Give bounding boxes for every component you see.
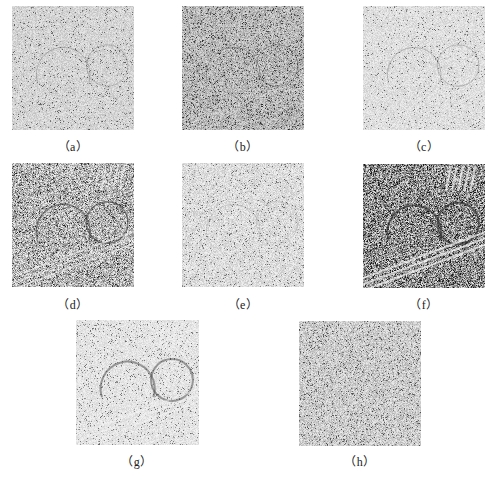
panel-f-image <box>363 164 485 288</box>
panel-g-image <box>76 320 199 445</box>
caption-d: （d） <box>43 295 103 313</box>
panel-c-image <box>363 6 485 130</box>
panel-h-image <box>299 321 421 446</box>
panel-d <box>12 163 134 287</box>
panel-b <box>182 6 304 130</box>
panel-a-image <box>12 6 134 130</box>
panel-f <box>363 164 485 288</box>
panel-g <box>76 320 199 445</box>
caption-g: （g） <box>107 452 167 470</box>
panel-e <box>182 163 304 287</box>
caption-f: （f） <box>394 295 454 313</box>
caption-e: （e） <box>213 295 273 313</box>
panel-d-image <box>12 163 134 287</box>
panel-h <box>299 321 421 446</box>
panel-c <box>363 6 485 130</box>
caption-b: （b） <box>213 137 273 155</box>
caption-a: （a） <box>43 137 103 155</box>
caption-h: （h） <box>330 452 390 470</box>
panel-a <box>12 6 134 130</box>
caption-c: （c） <box>394 137 454 155</box>
panel-e-image <box>182 163 304 287</box>
panel-b-image <box>182 6 304 130</box>
